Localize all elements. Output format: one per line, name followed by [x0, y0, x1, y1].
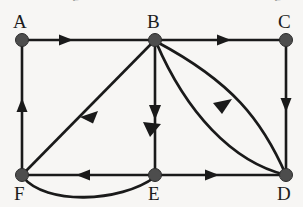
node-e[interactable]	[149, 169, 162, 182]
node-label-d: D	[277, 184, 291, 203]
node-label-a: A	[13, 12, 27, 31]
node-label-f: F	[14, 184, 25, 203]
edge-e-d-arrowhead	[205, 170, 219, 181]
node-label-b: B	[147, 12, 160, 31]
edge-b-c-arrowhead	[217, 35, 231, 46]
edge-d-b-inner	[143, 42, 286, 175]
edge-b-e	[149, 40, 161, 175]
node-f[interactable]	[16, 169, 29, 182]
edge-f-a-arrowhead	[17, 98, 28, 112]
node-a[interactable]	[16, 34, 29, 47]
edge-a-b-arrowhead	[59, 35, 73, 46]
edge-d-b-outer-arrowhead	[213, 99, 232, 114]
edge-b-f	[22, 40, 155, 175]
edge-f-a	[17, 40, 28, 175]
edge-c-d	[281, 40, 292, 175]
node-d[interactable]	[280, 169, 293, 182]
edge-d-b-inner-arrowhead	[143, 122, 161, 137]
edge-e-f	[22, 170, 155, 181]
node-label-e: E	[148, 184, 160, 203]
edge-b-c	[155, 35, 286, 46]
edge-e-f-arrowhead	[76, 170, 90, 181]
edge-e-d	[155, 170, 286, 181]
edge-b-e-arrowhead	[149, 105, 161, 120]
node-b[interactable]	[149, 34, 162, 47]
node-label-c: C	[278, 12, 291, 31]
node-c[interactable]	[280, 34, 293, 47]
graph-diagram-canvas: g g	[0, 0, 303, 207]
edge-c-d-arrowhead	[281, 98, 292, 112]
edge-d-b-outer	[157, 42, 286, 175]
edge-a-b	[22, 35, 155, 46]
